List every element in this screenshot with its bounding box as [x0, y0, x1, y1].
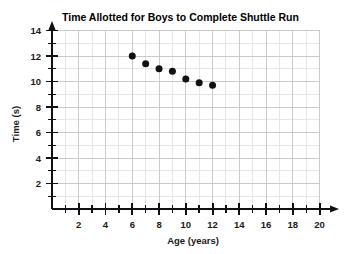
y-axis-tick-label: 8 — [36, 102, 41, 113]
x-axis-title: Age (years) — [167, 235, 219, 246]
y-axis-tick-label: 10 — [30, 76, 41, 87]
chart-title: Time Allotted for Boys to Complete Shutt… — [62, 11, 299, 23]
y-axis-title: Time (s) — [10, 106, 21, 142]
data-point — [156, 65, 163, 72]
y-axis-tick-label: 2 — [36, 178, 41, 189]
data-point — [209, 82, 216, 89]
data-point — [142, 60, 149, 67]
x-axis-tick-label: 12 — [207, 219, 218, 230]
x-axis-tick-label: 2 — [76, 219, 81, 230]
x-axis-tick-label: 18 — [288, 219, 299, 230]
x-axis-tick-label: 10 — [181, 219, 192, 230]
x-axis-tick-label: 20 — [314, 219, 325, 230]
x-axis-tick-label: 4 — [103, 219, 109, 230]
y-axis-tick-label: 12 — [30, 51, 41, 62]
shuttle-run-scatter-chart: 24681012141618202468101214 Time Allotted… — [0, 0, 349, 254]
y-axis-tick-label: 6 — [36, 127, 41, 138]
y-axis-tick-label: 14 — [30, 25, 41, 36]
data-point — [169, 68, 176, 75]
data-point — [182, 75, 189, 82]
x-axis-tick-label: 16 — [261, 219, 272, 230]
data-point — [196, 79, 203, 86]
x-axis-tick-label: 6 — [130, 219, 135, 230]
chart-container: 24681012141618202468101214 Time Allotted… — [0, 0, 349, 254]
y-axis-tick-label: 4 — [36, 153, 42, 164]
x-axis-tick-label: 8 — [156, 219, 161, 230]
data-point — [129, 53, 136, 60]
x-axis-tick-label: 14 — [234, 219, 245, 230]
